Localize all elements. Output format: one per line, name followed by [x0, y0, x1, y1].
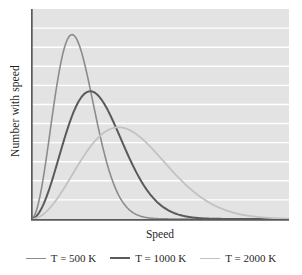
legend-label-2000k: T = 2000 K [225, 253, 276, 264]
legend-item-1000k[interactable]: T = 1000 K [110, 253, 186, 264]
legend-label-1000k: T = 1000 K [135, 253, 186, 264]
legend-item-500k[interactable]: T = 500 K [26, 253, 96, 264]
chart-legend: T = 500 K T = 1000 K T = 2000 K [0, 248, 302, 268]
legend-label-500k: T = 500 K [51, 253, 96, 264]
distribution-chart [31, 9, 289, 225]
plot-background [31, 9, 289, 219]
y-axis-label-text: Number with speed [9, 65, 21, 157]
legend-swatch-2000k [200, 258, 220, 259]
legend-swatch-500k [26, 258, 46, 259]
legend-item-2000k[interactable]: T = 2000 K [200, 253, 276, 264]
y-axis-label: Number with speed [0, 0, 30, 222]
plot-area [31, 9, 289, 225]
figure-container: Number with speed Speed T = 500 K T = 10… [0, 0, 302, 275]
x-axis-label: Speed [31, 228, 289, 240]
plot-background-group [31, 9, 289, 219]
legend-swatch-1000k [110, 257, 130, 259]
